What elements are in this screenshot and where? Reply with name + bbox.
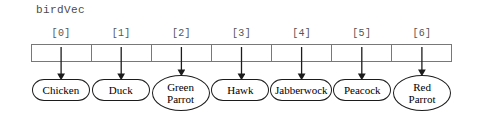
element-label-line: Duck: [109, 84, 133, 96]
index-label-6: [6]: [392, 27, 452, 41]
index-label-row: [0] [1] [2] [3] [4] [5] [6]: [31, 27, 452, 41]
element-label-line: Hawk: [227, 84, 253, 96]
array-cell-1: [92, 45, 152, 61]
index-label-5: [5]: [332, 27, 392, 41]
element-oval-chicken: Chicken: [32, 79, 90, 101]
element-oval-jabberwock: Jabberwock: [270, 79, 332, 101]
element-oval-duck: Duck: [92, 79, 150, 101]
element-oval-peacock: Peacock: [333, 79, 391, 101]
element-label-line: Red: [413, 81, 431, 93]
element-oval-red-parrot: Red Parrot: [393, 75, 451, 111]
index-label-0: [0]: [31, 27, 91, 41]
oval-slot-5: Peacock: [332, 72, 392, 121]
element-oval-green-parrot: Green Parrot: [152, 75, 210, 111]
oval-slot-4: Jabberwock: [270, 72, 332, 121]
oval-slot-6: Red Parrot: [392, 72, 452, 121]
array-cell-2: [152, 45, 212, 61]
index-label-3: [3]: [211, 27, 271, 41]
array-cell-5: [332, 45, 392, 61]
array-container: [31, 44, 452, 62]
element-label-line: Green: [167, 81, 194, 93]
oval-slot-0: Chicken: [31, 72, 91, 121]
index-label-1: [1]: [91, 27, 151, 41]
element-label-line: Jabberwock: [275, 84, 328, 96]
oval-slot-1: Duck: [91, 72, 151, 121]
index-label-2: [2]: [151, 27, 211, 41]
array-cell-4: [272, 45, 332, 61]
element-label-line: Parrot: [409, 93, 436, 105]
element-label-line: Chicken: [43, 84, 80, 96]
element-oval-row: Chicken Duck Green Parrot Hawk Jabberwoc…: [31, 72, 452, 121]
array-cell-0: [32, 45, 92, 61]
element-oval-hawk: Hawk: [211, 79, 269, 101]
array-cell-6: [392, 45, 451, 61]
index-label-4: [4]: [272, 27, 332, 41]
array-cell-3: [212, 45, 272, 61]
element-label-line: Peacock: [344, 84, 381, 96]
oval-slot-3: Hawk: [210, 72, 270, 121]
variable-name-label: birdVec: [36, 4, 85, 16]
oval-slot-2: Green Parrot: [151, 72, 211, 121]
element-label-line: Parrot: [167, 93, 194, 105]
array-pointer-diagram: birdVec [0] [1] [2] [3] [4] [5] [6]: [0, 0, 481, 121]
